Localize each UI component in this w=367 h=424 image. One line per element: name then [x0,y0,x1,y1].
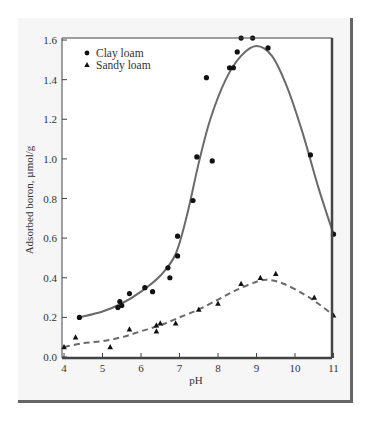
x-tick-label: 10 [290,362,302,374]
clay-loam-point [265,45,270,50]
clay-loam-point [231,65,236,70]
clay-loam-point [235,49,240,54]
x-tick-label: 8 [215,362,221,374]
y-tick-label: 1.6 [43,34,57,46]
y-tick-label: 0.4 [43,272,57,284]
x-axis-label: pH [189,374,203,386]
y-tick-label: 1.2 [43,113,57,125]
y-tick-label: 0.0 [43,351,57,363]
clay-loam-point [194,154,199,159]
y-tick-label: 0.8 [43,193,57,205]
clay-loam-point [77,315,82,320]
clay-loam-point [150,289,155,294]
legend-circle-marker-icon [85,51,90,56]
y-tick-label: 0.6 [43,232,57,244]
clay-loam-point [119,303,124,308]
clay-loam-point [167,275,172,280]
clay-loam-point [175,234,180,239]
clay-loam-point [165,265,170,270]
y-tick-label: 1.4 [43,74,57,86]
clay-loam-point [210,158,215,163]
clay-loam-point [127,291,132,296]
x-tick-label: 5 [100,362,106,374]
clay-loam-point [142,285,147,290]
clay-loam-point [175,253,180,258]
x-tick-label: 6 [138,362,144,374]
x-tick-label: 11 [328,362,339,374]
clay-loam-point [190,198,195,203]
y-tick-label: 1.0 [43,153,57,165]
y-tick-label: 0.2 [43,311,57,323]
x-tick-label: 9 [254,362,260,374]
y-axis-label: Adsorbed boron, µmol/g [23,145,35,254]
x-tick-label: 4 [61,362,67,374]
x-tick-label: 7 [177,362,183,374]
clay-loam-point [308,152,313,157]
legend-label-sandy-loam: Sandy loam [96,59,151,72]
clay-loam-point [204,75,209,80]
boron-adsorption-chart: 4567891011 0.00.20.40.60.81.01.21.41.6 p… [0,0,367,424]
